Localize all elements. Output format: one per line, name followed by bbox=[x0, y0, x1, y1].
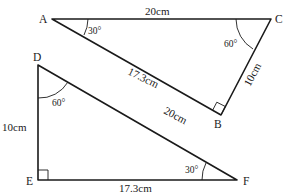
angle-label-d: 60° bbox=[52, 98, 66, 108]
vertex-label-d: D bbox=[33, 51, 41, 63]
angle-arc-f bbox=[202, 163, 206, 180]
side-label-bc: 10cm bbox=[241, 60, 263, 88]
side-label-ab: 17.3cm bbox=[126, 65, 161, 90]
angle-arc-d bbox=[38, 82, 68, 98]
triangle-abc: A C B 20cm 17.3cm 10cm 30° 60° bbox=[39, 5, 283, 130]
angle-label-c: 60° bbox=[224, 39, 238, 49]
vertex-label-c: C bbox=[275, 13, 283, 25]
vertex-label-a: A bbox=[39, 13, 48, 25]
right-angle-marker-e bbox=[38, 170, 48, 180]
angle-label-a: 30° bbox=[88, 26, 102, 36]
congruent-triangles-diagram: A C B 20cm 17.3cm 10cm 30° 60° D E F 20c… bbox=[0, 0, 286, 196]
angle-label-f: 30° bbox=[185, 165, 199, 175]
angle-arc-c bbox=[236, 19, 253, 49]
side-label-de: 10cm bbox=[2, 121, 27, 133]
side-label-ac: 20cm bbox=[145, 5, 170, 17]
vertex-label-e: E bbox=[26, 175, 33, 187]
side-label-ef: 17.3cm bbox=[119, 182, 152, 194]
side-label-df: 20cm bbox=[162, 104, 190, 126]
triangle-def: D E F 20cm 17.3cm 10cm 60° 30° bbox=[2, 51, 249, 194]
vertex-label-f: F bbox=[243, 175, 249, 187]
vertex-label-b: B bbox=[214, 118, 222, 130]
